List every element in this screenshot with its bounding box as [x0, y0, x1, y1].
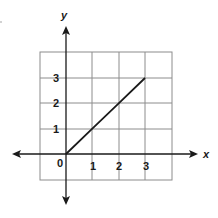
- y-tick-label: 1: [53, 123, 59, 135]
- stray-dot: [0, 21, 2, 23]
- x-tick-label: 1: [90, 160, 96, 172]
- y-tick-label: 2: [53, 97, 59, 109]
- coordinate-plane: y x 0 1 2 3 1 2 3: [0, 0, 218, 218]
- y-tick-label: 3: [53, 72, 59, 84]
- y-axis-label: y: [60, 9, 68, 21]
- x-axis-label: x: [202, 148, 210, 160]
- data-line: [66, 78, 145, 154]
- x-tick-label: 2: [116, 160, 122, 172]
- x-tick-label: 3: [143, 160, 149, 172]
- origin-label: 0: [57, 157, 63, 169]
